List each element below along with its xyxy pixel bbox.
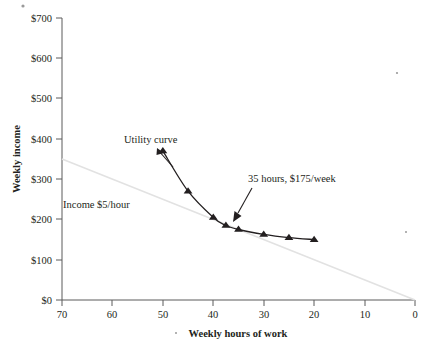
y-tick-label-100: $100 [31, 255, 52, 266]
x-axis-title: Weekly hours of work [189, 328, 288, 339]
annotation-35-hours-leader [238, 188, 252, 213]
scan-speck-icon [175, 332, 177, 334]
x-tick-label-30: 30 [259, 309, 270, 320]
annotation-35-hours-label: 35 hours, $175/week [248, 173, 337, 184]
annotation-budget-line: Income $5/hour [63, 199, 130, 210]
annotation-utility-curve-label: Utility curve [124, 134, 178, 145]
x-tick-label-10: 10 [360, 309, 371, 320]
x-tick-label-50: 50 [158, 309, 169, 320]
x-tick-label-70: 70 [57, 309, 68, 320]
y-tick-label-0: $0 [42, 295, 53, 306]
annotation-35-hours: 35 hours, $175/week [233, 173, 337, 222]
y-axis-title: Weekly income [11, 125, 22, 193]
chart-canvas: $700 $600 $500 $400 $300 $200 $100 $0 We… [0, 0, 427, 344]
scan-speck-group [21, 4, 407, 334]
x-axis: 70 60 50 40 30 20 10 0 Weekly hours of w… [57, 300, 418, 339]
y-tick-label-300: $300 [31, 174, 52, 185]
scan-speck-icon [21, 4, 24, 7]
y-tick-label-400: $400 [31, 134, 52, 145]
x-tick-label-20: 20 [309, 309, 320, 320]
chart-figure: $700 $600 $500 $400 $300 $200 $100 $0 We… [0, 0, 427, 344]
y-tick-label-200: $200 [31, 214, 52, 225]
y-tick-label-700: $700 [31, 13, 52, 24]
scan-speck-icon [396, 72, 398, 74]
annotation-35-hours-arrowhead-icon [233, 211, 242, 222]
x-tick-label-40: 40 [208, 309, 219, 320]
y-axis: $700 $600 $500 $400 $300 $200 $100 $0 We… [11, 13, 62, 306]
annotation-budget-line-label: Income $5/hour [63, 199, 130, 210]
utility-curve-series [158, 147, 318, 242]
utility-curve-markers [158, 147, 318, 242]
x-tick-label-60: 60 [107, 309, 118, 320]
data-point-marker [184, 187, 193, 193]
y-tick-label-600: $600 [31, 53, 52, 64]
x-tick-label-0: 0 [412, 309, 417, 320]
scan-speck-icon [405, 231, 407, 233]
y-tick-label-500: $500 [31, 93, 52, 104]
